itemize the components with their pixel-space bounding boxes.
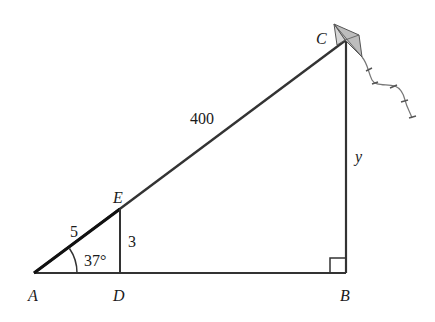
length-BC-label: y <box>353 148 363 166</box>
length-AE-label: 5 <box>70 223 78 240</box>
point-label-B: B <box>340 287 350 304</box>
point-label-E: E <box>112 189 123 206</box>
point-label-A: A <box>27 287 38 304</box>
point-label-C: C <box>316 30 327 47</box>
segment-AE <box>34 209 120 273</box>
length-AC-label: 400 <box>190 110 214 127</box>
diagram-svg: A D B E C 400 5 3 y 37° <box>0 0 435 322</box>
kite-triangle-diagram: A D B E C 400 5 3 y 37° <box>0 0 435 322</box>
length-ED-label: 3 <box>128 233 136 250</box>
angle-arc-A <box>70 249 78 274</box>
right-angle-marker <box>330 258 346 273</box>
point-label-D: D <box>112 287 125 304</box>
angle-A-label: 37° <box>84 252 106 269</box>
